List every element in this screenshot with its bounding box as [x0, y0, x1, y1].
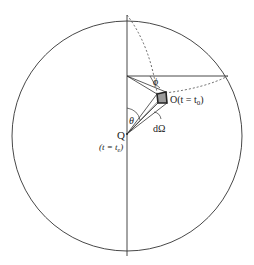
dashed-horizontal-arc	[165, 76, 228, 93]
volume-element-box	[157, 92, 167, 103]
celestial-sphere-diagram: O(t = t0) Q (t = te) θ ϕ dΩ	[0, 0, 254, 265]
solid-angle-leader	[154, 112, 161, 119]
phi-label: ϕ	[153, 76, 158, 87]
point-q-marker	[126, 133, 128, 135]
theta-label: θ	[129, 115, 134, 126]
ray-top-to-box-2	[127, 76, 166, 92]
solid-angle-label: dΩ	[153, 123, 165, 134]
point-o-label: O(t = t0)	[170, 94, 204, 107]
point-q-label: Q	[117, 129, 125, 141]
point-q-time-label: (t = te)	[99, 142, 123, 153]
